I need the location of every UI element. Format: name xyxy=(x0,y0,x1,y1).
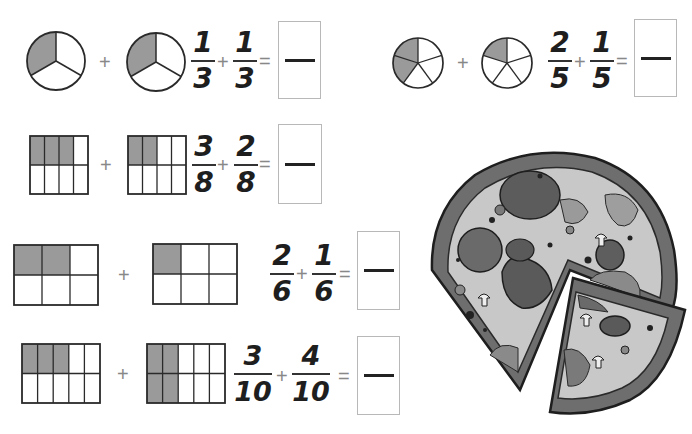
equals-sign: = xyxy=(616,51,628,71)
numerator: 1 xyxy=(190,28,216,58)
fraction-bar xyxy=(234,373,272,375)
equals-sign: = xyxy=(259,51,271,71)
answer-box-4[interactable] xyxy=(357,231,400,310)
plus-sign: + xyxy=(217,155,229,175)
denominator: 8 xyxy=(191,168,217,198)
answer-fraction-bar xyxy=(364,269,394,272)
plus-sign: + xyxy=(276,366,288,386)
numerator: 1 xyxy=(311,241,337,271)
plus-sign: + xyxy=(574,52,586,72)
grid-model-tenths-a xyxy=(21,343,101,404)
plus-sign: + xyxy=(217,52,229,72)
denominator: 6 xyxy=(269,277,295,307)
numerator: 2 xyxy=(233,132,259,162)
answer-box-1[interactable] xyxy=(278,21,321,99)
denominator: 10 xyxy=(291,377,331,407)
circle-model-thirds-a xyxy=(25,30,87,92)
fraction-1-5: 1 5 xyxy=(589,28,615,94)
answer-box-5[interactable] xyxy=(357,336,400,415)
fraction-1-3-a: 1 3 xyxy=(190,28,216,94)
plus-sign: + xyxy=(457,53,469,73)
fraction-2-6: 2 6 xyxy=(269,241,295,307)
equals-sign: = xyxy=(339,264,351,284)
plus-sign: + xyxy=(100,155,112,175)
denominator: 5 xyxy=(589,64,615,94)
grid-model-sixths-b xyxy=(152,243,238,305)
denominator: 5 xyxy=(547,64,573,94)
grid-model-eighths-a xyxy=(29,135,89,195)
fraction-bar xyxy=(292,373,330,375)
circle-model-fifths-a xyxy=(391,36,445,90)
denominator: 3 xyxy=(190,64,216,94)
fraction-3-10: 3 10 xyxy=(233,341,273,407)
plus-sign: + xyxy=(296,264,308,284)
numerator: 3 xyxy=(191,132,217,162)
pizza-illustration-icon xyxy=(430,150,692,420)
numerator: 2 xyxy=(269,241,295,271)
fraction-1-6: 1 6 xyxy=(311,241,337,307)
answer-box-3[interactable] xyxy=(278,124,322,204)
answer-fraction-bar xyxy=(364,374,394,377)
circle-model-fifths-b xyxy=(480,36,534,90)
denominator: 3 xyxy=(232,64,258,94)
answer-box-2[interactable] xyxy=(634,19,677,97)
equals-sign: = xyxy=(338,366,350,386)
numerator: 2 xyxy=(547,28,573,58)
grid-model-eighths-b xyxy=(127,135,187,195)
fraction-1-3-b: 1 3 xyxy=(232,28,258,94)
answer-fraction-bar xyxy=(285,163,315,166)
numerator: 3 xyxy=(233,341,273,371)
plus-sign: + xyxy=(117,364,129,384)
denominator: 10 xyxy=(233,377,273,407)
numerator: 1 xyxy=(589,28,615,58)
numerator: 1 xyxy=(232,28,258,58)
grid-model-sixths-a xyxy=(13,244,99,306)
numerator: 4 xyxy=(291,341,331,371)
fraction-4-10: 3 4 10 xyxy=(291,341,331,407)
denominator: 8 xyxy=(233,168,259,198)
plus-sign: + xyxy=(99,52,111,72)
equals-sign: = xyxy=(259,154,271,174)
answer-fraction-bar xyxy=(285,59,315,62)
denominator: 6 xyxy=(311,277,337,307)
circle-model-thirds-b xyxy=(125,31,187,93)
answer-fraction-bar xyxy=(641,57,671,60)
fraction-2-5: 2 5 xyxy=(547,28,573,94)
grid-model-tenths-b xyxy=(146,343,226,404)
fraction-2-8: 2 8 xyxy=(233,132,259,198)
plus-sign: + xyxy=(118,265,130,285)
fraction-3-8: 3 8 xyxy=(191,132,217,198)
